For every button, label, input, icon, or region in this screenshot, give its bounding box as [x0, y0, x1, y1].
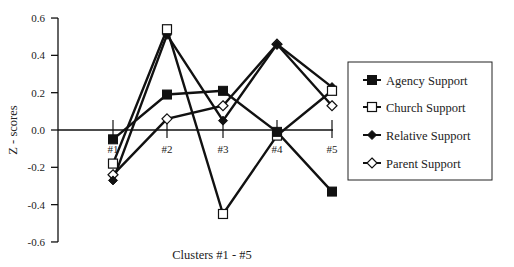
x-tick-label: #3 [218, 143, 230, 155]
x-tick-label: #4 [272, 143, 284, 155]
data-point-marker [219, 86, 228, 95]
y-tick-label: 0.0 [31, 124, 45, 136]
y-axis: 0.60.40.20.0-0.2-0.4-0.6 [28, 12, 58, 248]
data-point-marker [328, 187, 337, 196]
y-tick-label: -0.6 [28, 236, 46, 248]
x-axis: #1#2#3#4#5 [58, 120, 338, 155]
x-tick-label: #2 [162, 143, 173, 155]
data-point-marker [109, 135, 118, 144]
legend-marker-icon [368, 76, 377, 85]
data-point-marker [163, 90, 172, 99]
legend: Agency SupportChurch SupportRelative Sup… [348, 62, 492, 180]
legend-label: Relative Support [386, 129, 471, 143]
x-axis-title: Clusters #1 - #5 [172, 248, 252, 262]
x-tick-label: #5 [327, 143, 339, 155]
legend-label: Church Support [386, 101, 466, 115]
y-tick-label: -0.2 [28, 161, 45, 173]
legend-marker-icon [368, 103, 377, 112]
y-tick-label: 0.2 [31, 87, 45, 99]
data-point-marker [219, 209, 228, 218]
y-tick-label: 0.4 [31, 49, 45, 61]
series-markers [108, 25, 337, 219]
line-chart: 0.60.40.20.0-0.2-0.4-0.6 #1#2#3#4#5 Z - … [0, 0, 514, 267]
data-point-marker [273, 127, 282, 136]
y-tick-label: 0.6 [31, 12, 45, 24]
y-tick-label: -0.4 [28, 199, 46, 211]
legend-label: Parent Support [386, 157, 461, 171]
data-point-marker [109, 159, 118, 168]
legend-label: Agency Support [386, 74, 468, 88]
data-point-marker [328, 86, 337, 95]
data-point-marker [163, 25, 172, 34]
y-axis-title: Z - scores [6, 105, 20, 154]
